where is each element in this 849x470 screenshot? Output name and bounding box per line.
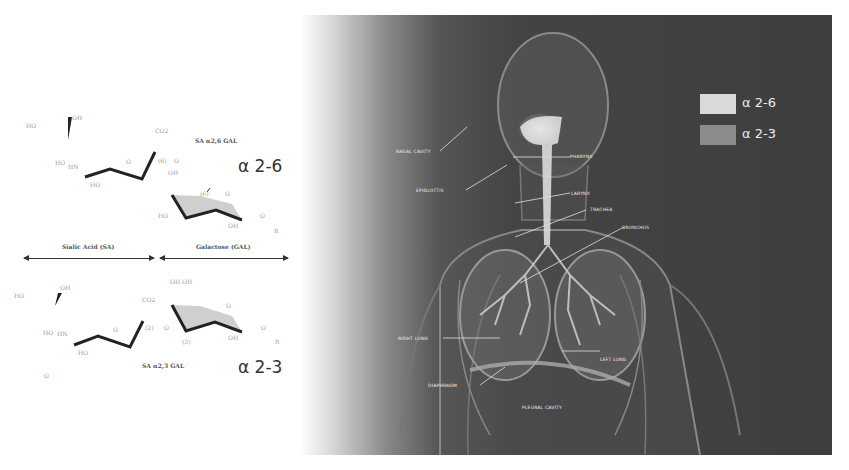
atom-label: HO [55, 159, 65, 166]
atom-label: O [44, 372, 49, 379]
chemical-structures-panel: HO OH CO2 HO HN HO O (6) O OH (6) O HO O… [0, 0, 300, 470]
legend-label-a26: α 2-6 [742, 95, 776, 110]
sialic-galactose-structures-drawing [0, 0, 300, 470]
atom-label: (2) [145, 324, 154, 331]
atom-label: O [225, 190, 230, 197]
atom-label: O [164, 324, 169, 331]
label-bronchus: BRONCHUS [622, 225, 649, 230]
legend-label-a23: α 2-3 [742, 126, 776, 141]
atom-label: (6) [200, 190, 209, 197]
atom-label: O [113, 326, 118, 333]
alpha-2-3-label: α 2-3 [238, 357, 282, 377]
atom-label: O [226, 302, 231, 309]
atom-label: HO [14, 292, 24, 299]
label-nasal-cavity: NASAL CAVITY [396, 149, 431, 154]
atom-label: HO [26, 122, 36, 129]
legend-swatch-a26 [700, 94, 736, 114]
atom-label: O [260, 212, 265, 219]
label-left-lung: LEFT LUNG [600, 357, 626, 362]
atom-label: HN [57, 330, 67, 337]
label-right-lung: RIGHT LUNG [398, 336, 428, 341]
atom-label: O [126, 158, 131, 165]
atom-label: R [275, 338, 280, 345]
atom-label: HO [78, 349, 88, 356]
atom-label: OH OH [170, 278, 192, 285]
galactose-span-arrow [160, 258, 288, 259]
label-pleural-cavity: PLEURAL CAVITY [522, 405, 562, 410]
label-larynx: LARYNX [571, 191, 590, 196]
atom-label: O [261, 324, 266, 331]
atom-label: OH [60, 284, 70, 291]
atom-label: (3) [182, 338, 191, 345]
atom-label: HO [90, 181, 100, 188]
body-silhouette-drawing [300, 15, 832, 455]
atom-label: (6) [158, 157, 167, 164]
sialic-acid-label: Sialic Acid (SA) [62, 243, 114, 250]
atom-label: OH [228, 222, 238, 229]
galactose-label: Galactose (GAL) [196, 243, 251, 250]
atom-label: HN [68, 163, 78, 170]
label-pharynx: PHARYNX [570, 154, 593, 159]
respiratory-anatomy-panel: α 2-6 α 2-3 NASAL CAVITY PHARYNX EPIGLOT… [300, 15, 832, 455]
linkage-title-a26: SA α2,6 GAL [195, 137, 237, 144]
atom-label: HO [158, 212, 168, 219]
atom-label: OH [72, 114, 82, 121]
atom-label: HO [43, 329, 53, 336]
label-epiglottis: EPIGLOTTIS [416, 188, 444, 193]
label-diaphragm: DIAPHRAGM [428, 383, 457, 388]
label-trachea: TRACHEA [590, 207, 613, 212]
linkage-title-a23: SA α2,3 GAL [142, 362, 184, 369]
atom-label: CO2 [142, 296, 155, 303]
atom-label: OH [228, 334, 238, 341]
alpha-2-6-label: α 2-6 [238, 156, 282, 176]
atom-label: CO2 [155, 127, 168, 134]
atom-label: R [274, 227, 279, 234]
atom-label: O [174, 157, 179, 164]
atom-label: OH [168, 169, 178, 176]
legend-swatch-a23 [700, 125, 736, 145]
sialic-acid-span-arrow [24, 258, 154, 259]
